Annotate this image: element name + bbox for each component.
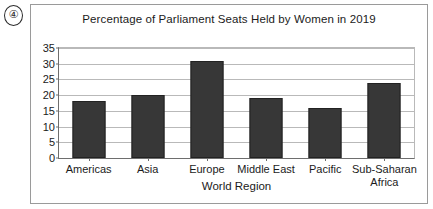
y-tick-label: 35 <box>43 42 55 54</box>
y-tick-label: 30 <box>43 58 55 70</box>
x-tick-label: Americas <box>66 163 112 176</box>
bar-group: Americas <box>59 48 118 158</box>
bar <box>131 95 164 158</box>
y-tick-label: 15 <box>43 105 55 117</box>
y-tick-label: 25 <box>43 73 55 85</box>
bar <box>250 98 283 158</box>
bar-group: Pacific <box>296 48 355 158</box>
x-tick-label: Asia <box>137 163 158 176</box>
bar <box>368 83 401 158</box>
y-tick-label: 0 <box>49 152 55 164</box>
y-tick-label: 20 <box>43 89 55 101</box>
y-tick-label: 5 <box>49 136 55 148</box>
x-tick-mark <box>266 158 267 161</box>
x-axis-title: World Region <box>58 180 415 192</box>
chart-frame: Percentage of Parliament Seats Held by W… <box>30 4 428 204</box>
bars-layer: AmericasAsiaEuropeMiddle EastPacificSub-… <box>59 48 414 158</box>
x-tick-label: Europe <box>189 163 224 176</box>
bar-group: Asia <box>118 48 177 158</box>
x-tick-mark <box>384 158 385 161</box>
chart-title: Percentage of Parliament Seats Held by W… <box>31 13 427 25</box>
bar <box>190 61 223 158</box>
plot-area: 05101520253035 AmericasAsiaEuropeMiddle … <box>58 47 415 159</box>
x-tick-mark <box>325 158 326 161</box>
x-tick-mark <box>89 158 90 161</box>
bar-group: Sub-Saharan Africa <box>355 48 414 158</box>
bar-group: Middle East <box>237 48 296 158</box>
x-tick-label: Middle East <box>237 163 294 176</box>
bar <box>309 108 342 158</box>
bar-group: Europe <box>177 48 236 158</box>
question-number-marker: ④ <box>4 5 23 26</box>
x-tick-mark <box>207 158 208 161</box>
bar <box>72 101 105 158</box>
x-tick-mark <box>148 158 149 161</box>
x-tick-label: Pacific <box>309 163 341 176</box>
y-tick-label: 10 <box>43 121 55 133</box>
